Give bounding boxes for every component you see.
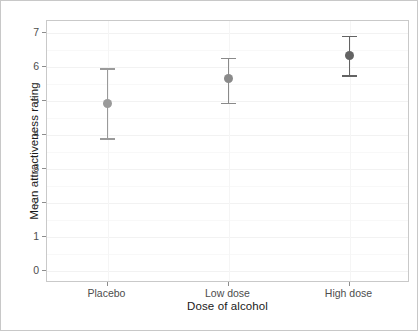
data-point-marker: [103, 99, 112, 108]
plot-panel: [46, 20, 409, 282]
gridline-horizontal: [47, 237, 408, 238]
errorbar-cap-lower: [342, 75, 357, 77]
gridline-horizontal: [47, 271, 408, 272]
errorbar-cap-upper: [221, 58, 236, 60]
y-axis-tick-label: 1: [7, 231, 39, 242]
gridline-horizontal: [47, 169, 408, 170]
data-point-marker: [224, 74, 233, 83]
y-axis-title: Mean attractiveness rating: [23, 6, 45, 296]
y-axis-tick-label: 4: [7, 129, 39, 140]
x-axis-tick-mark: [107, 282, 108, 286]
gridline-horizontal-minor: [47, 152, 408, 153]
gridline-vertical: [108, 21, 109, 281]
x-axis-tick-label: Low dose: [173, 288, 283, 299]
y-axis-tick-label: 6: [7, 61, 39, 72]
y-axis-tick-label: 0: [7, 265, 39, 276]
y-axis-tick-label: 3: [7, 163, 39, 174]
x-axis-tick-label: High dose: [294, 288, 404, 299]
data-point-marker: [345, 51, 354, 60]
errorbar-cap-upper: [100, 68, 115, 70]
y-axis-tick-label: 5: [7, 95, 39, 106]
errorbar-cap-lower: [100, 138, 115, 140]
errorbar-cap-upper: [342, 36, 357, 38]
x-axis-tick-label: Placebo: [52, 288, 162, 299]
chart-figure: Mean attractiveness rating Dose of alcoh…: [0, 0, 418, 331]
errorbar-cap-lower: [221, 103, 236, 105]
gridline-horizontal-minor: [47, 50, 408, 51]
plot-area: [47, 21, 408, 281]
gridline-horizontal: [47, 135, 408, 136]
gridline-horizontal-minor: [47, 220, 408, 221]
gridline-horizontal: [47, 33, 408, 34]
gridline-horizontal: [47, 203, 408, 204]
x-axis-tick-mark: [349, 282, 350, 286]
x-axis-title: Dose of alcohol: [46, 300, 409, 312]
gridline-horizontal-minor: [47, 118, 408, 119]
y-axis-tick-label: 2: [7, 197, 39, 208]
x-axis-tick-mark: [228, 282, 229, 286]
gridline-horizontal-minor: [47, 254, 408, 255]
y-axis-tick-label: 7: [7, 27, 39, 38]
gridline-horizontal-minor: [47, 186, 408, 187]
